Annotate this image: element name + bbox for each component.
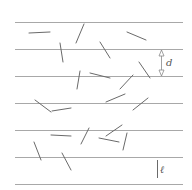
needle-length-label: ℓ (160, 164, 164, 175)
background (0, 0, 192, 190)
spacing-label: d (166, 57, 172, 68)
buffon-needle-diagram: d ℓ (0, 0, 192, 190)
